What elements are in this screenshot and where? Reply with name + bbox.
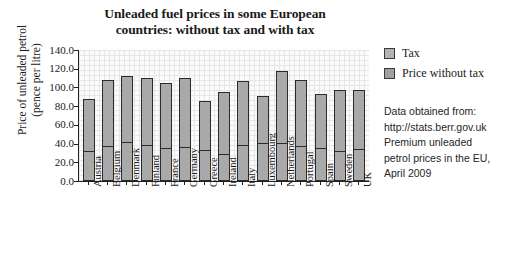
legend-swatch xyxy=(384,68,395,79)
x-tick-label: Netherlands xyxy=(285,136,296,187)
x-tick-label: UK xyxy=(362,172,373,187)
x-tick-mark xyxy=(339,181,340,185)
x-tick-mark xyxy=(262,181,263,185)
y-tick-label: 0.0 xyxy=(30,176,74,187)
bar-segment-divider xyxy=(296,146,306,147)
x-tick-mark xyxy=(88,181,89,185)
x-tick-label: Austria xyxy=(92,156,103,187)
x-tick-mark xyxy=(146,181,147,185)
bar-segment-divider xyxy=(142,145,152,146)
x-tick-label: France xyxy=(169,158,180,187)
legend-label: Tax xyxy=(402,47,420,60)
legend-label: Price without tax xyxy=(402,67,484,80)
x-tick-label: Greece xyxy=(208,157,219,187)
x-tick-label: Spain xyxy=(324,163,335,187)
chart-legend: TaxPrice without tax xyxy=(384,47,524,87)
x-tick-label: Ireland xyxy=(227,157,238,187)
y-tick-label: 100.0 xyxy=(30,82,74,93)
x-tick-label: Sweden xyxy=(343,154,354,187)
x-tick-label: Italy xyxy=(246,168,257,187)
x-tick-mark xyxy=(358,181,359,185)
y-tick-label: 60.0 xyxy=(30,119,74,130)
x-tick-label: Denmark xyxy=(130,148,141,187)
legend-item: Price without tax xyxy=(384,67,524,80)
source-note-line: Premium unleaded xyxy=(384,135,526,151)
x-tick-label: Germany xyxy=(188,148,199,187)
y-axis-title: Price of unleaded petrol (pence per litr… xyxy=(15,5,43,155)
bar-group xyxy=(315,50,327,181)
x-tick-label: Portugal xyxy=(304,151,315,187)
bar-segment-divider xyxy=(84,151,94,152)
bar-segment-divider xyxy=(354,149,364,150)
bar-segment-divider xyxy=(219,154,229,155)
x-tick-mark xyxy=(184,181,185,185)
y-axis-title-line-1: Price of unleaded petrol xyxy=(15,5,29,155)
y-tick-label: 20.0 xyxy=(30,157,74,168)
x-tick-label: Belgium xyxy=(111,151,122,187)
source-note-line: April 2009 xyxy=(384,166,526,182)
bar-total xyxy=(237,81,249,181)
x-tick-mark xyxy=(320,181,321,185)
bar-group xyxy=(353,50,365,181)
bar-segment-divider xyxy=(103,146,113,147)
bar-segment-divider xyxy=(200,150,210,151)
legend-swatch xyxy=(384,48,395,59)
y-tick-label: 140.0 xyxy=(30,45,74,56)
bar-segment-divider xyxy=(316,148,326,149)
bar-segment-divider xyxy=(122,142,132,143)
y-axis-title-line-2: (pence per litre) xyxy=(29,5,43,155)
bar-segment-divider xyxy=(238,145,248,146)
bar-segment-divider xyxy=(335,151,345,152)
chart-title-line-1: Unleaded fuel prices in some European xyxy=(60,6,370,22)
x-tick-mark xyxy=(107,181,108,185)
chart-figure: Unleaded fuel prices in some European co… xyxy=(0,0,526,268)
y-tick-label: 80.0 xyxy=(30,101,74,112)
x-tick-mark xyxy=(242,181,243,185)
y-tick-label: 40.0 xyxy=(30,138,74,149)
x-tick-label: Luxembourg xyxy=(266,133,277,187)
source-note-line: Data obtained from: xyxy=(384,104,526,120)
x-tick-mark xyxy=(165,181,166,185)
legend-item: Tax xyxy=(384,47,524,60)
bar-segment-divider xyxy=(161,148,171,149)
source-note-line: petrol prices in the EU, xyxy=(384,151,526,167)
x-tick-label: Finland xyxy=(150,155,161,187)
bars-layer xyxy=(79,50,369,181)
y-tick-label: 120.0 xyxy=(30,63,74,74)
chart-title: Unleaded fuel prices in some European co… xyxy=(60,6,370,38)
bar-group xyxy=(237,50,249,181)
chart-title-line-2: countries: without tax and with tax xyxy=(60,22,370,38)
x-tick-mark xyxy=(300,181,301,185)
x-tick-mark xyxy=(126,181,127,185)
x-tick-mark xyxy=(223,181,224,185)
x-tick-mark xyxy=(281,181,282,185)
x-tick-mark xyxy=(204,181,205,185)
bar-total xyxy=(353,90,365,181)
source-note: Data obtained from:http://stats.berr.gov… xyxy=(384,104,526,182)
source-note-line: http://stats.berr.gov.uk xyxy=(384,120,526,136)
